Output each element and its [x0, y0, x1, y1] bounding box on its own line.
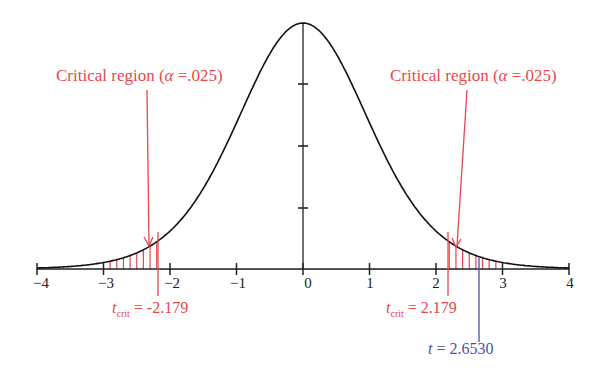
left-arrow: [144, 90, 153, 246]
x-tick-label: 1: [366, 275, 374, 292]
left-critical-value-label: tcrit = -2.179: [112, 299, 188, 319]
x-tick-label: 3: [499, 275, 507, 292]
right-critical-region-label: Critical region (α =.025): [390, 66, 557, 86]
x-tick-label: −2: [164, 275, 180, 292]
x-tick-label: 2: [432, 275, 440, 292]
t-distribution-chart: [0, 0, 607, 377]
x-tick-label: 0: [304, 275, 312, 292]
left-critical-region-label: Critical region (α =.025): [56, 66, 223, 86]
right-arrow: [452, 90, 467, 247]
x-tick-label: −1: [230, 275, 246, 292]
x-tick-label: −3: [98, 275, 114, 292]
x-tick-label: 4: [566, 275, 574, 292]
observed-t-label: t = 2.6530: [428, 340, 493, 358]
x-tick-label: −4: [33, 275, 49, 292]
right-critical-value-label: tcrit = 2.179: [386, 299, 457, 319]
